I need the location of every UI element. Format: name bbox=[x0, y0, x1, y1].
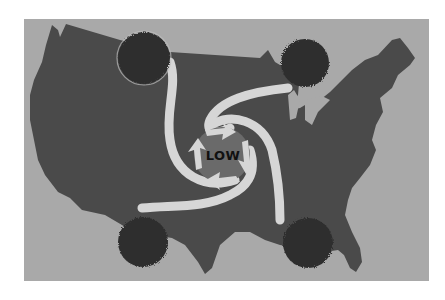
high-cell-southeast bbox=[283, 218, 333, 268]
low-pressure-label: LOW bbox=[198, 148, 248, 163]
high-cell-southwest bbox=[118, 217, 168, 267]
high-cell-northeast bbox=[281, 39, 329, 87]
high-cell-northwest bbox=[118, 32, 170, 84]
